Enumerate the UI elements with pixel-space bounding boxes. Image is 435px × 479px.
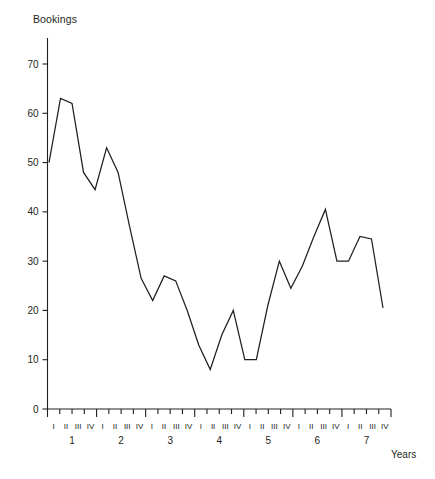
x-quarter-label: II — [309, 422, 313, 431]
bookings-data-line — [49, 99, 383, 370]
line-chart-svg: 010203040506070 IIIIIIIVIIIIIIIVIIIIIIIV… — [0, 0, 435, 479]
x-year-label: 1 — [69, 435, 75, 446]
x-year-label: 5 — [266, 435, 272, 446]
x-quarter-label: II — [113, 422, 117, 431]
x-quarter-label: II — [358, 422, 362, 431]
y-tick-label: 60 — [27, 108, 39, 119]
x-quarter-label: I — [249, 422, 251, 431]
quarter-label-group: IIIIIIIVIIIIIIIVIIIIIIIVIIIIIIIVIIIIIIIV… — [53, 422, 390, 431]
x-year-label: 4 — [216, 435, 222, 446]
x-quarter-label: IV — [87, 422, 95, 431]
x-quarter-label: IV — [136, 422, 144, 431]
x-quarter-label: I — [151, 422, 153, 431]
y-tick-label: 20 — [27, 305, 39, 316]
y-tick-label: 30 — [27, 256, 39, 267]
x-quarter-label: I — [102, 422, 104, 431]
year-label-group: 1234567 — [69, 435, 369, 446]
y-tick-label: 0 — [33, 404, 39, 415]
x-quarter-label: II — [64, 422, 68, 431]
x-quarter-label: III — [173, 422, 180, 431]
y-tick-group: 010203040506070 — [27, 59, 47, 415]
x-quarter-label: IV — [283, 422, 291, 431]
x-quarter-label: II — [162, 422, 166, 431]
x-quarter-label: I — [200, 422, 202, 431]
y-tick-label: 50 — [27, 157, 39, 168]
chart-container: Bookings Years 010203040506070 IIIIIIIVI… — [0, 0, 435, 479]
x-year-label: 3 — [167, 435, 173, 446]
x-quarter-label: III — [320, 422, 327, 431]
x-quarter-label: IV — [185, 422, 193, 431]
x-quarter-label: III — [369, 422, 376, 431]
y-tick-label: 40 — [27, 206, 39, 217]
x-tick-group — [48, 409, 392, 417]
x-year-label: 2 — [118, 435, 124, 446]
x-quarter-label: III — [75, 422, 82, 431]
x-year-label: 6 — [315, 435, 321, 446]
x-quarter-label: IV — [381, 422, 389, 431]
y-tick-label: 70 — [27, 59, 39, 70]
x-quarter-label: II — [211, 422, 215, 431]
x-quarter-label: IV — [332, 422, 340, 431]
x-year-label: 7 — [364, 435, 370, 446]
y-tick-label: 10 — [27, 354, 39, 365]
x-quarter-label: I — [53, 422, 55, 431]
x-quarter-label: II — [260, 422, 264, 431]
x-quarter-label: III — [124, 422, 131, 431]
x-quarter-label: III — [222, 422, 229, 431]
x-quarter-label: I — [347, 422, 349, 431]
x-quarter-label: III — [271, 422, 278, 431]
x-quarter-label: IV — [234, 422, 242, 431]
x-quarter-label: I — [298, 422, 300, 431]
